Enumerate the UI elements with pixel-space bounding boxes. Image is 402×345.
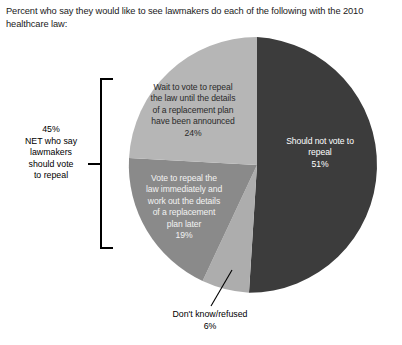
slice-label-line: plan later <box>167 219 202 229</box>
slice-label-repeal-immediately: Vote to repeal the law immediately and w… <box>126 173 242 241</box>
net-annotation-line: to repeal <box>34 170 68 180</box>
slice-label-line: law immediately and <box>146 184 222 194</box>
pie-chart-figure: Percent who say they would like to see l… <box>0 0 402 345</box>
slice-label-line: of a replacement plan <box>153 105 234 115</box>
net-annotation-value: 45% <box>42 124 60 134</box>
slice-label-should-not-vote-to-repeal: Should not vote to repeal 51% <box>268 136 372 170</box>
slice-label-line: of a replacement <box>153 207 216 217</box>
dont-know-annotation-value: 6% <box>204 321 217 331</box>
dont-know-annotation: Don't know/refused 6% <box>146 309 274 332</box>
slice-label-line: have been announced <box>151 116 234 126</box>
slice-label-line: Should not vote to <box>286 136 354 146</box>
slice-label-value: 24% <box>131 128 255 139</box>
slice-label-line: Vote to repeal the <box>151 173 217 183</box>
net-annotation-line: NET who say <box>25 136 77 146</box>
slice-label-line: repeal <box>308 147 331 157</box>
slice-label-line: the law until the details <box>151 93 236 103</box>
slice-label-value: 19% <box>126 230 242 241</box>
dont-know-annotation-label: Don't know/refused <box>172 309 247 319</box>
net-annotation: 45% NET who say lawmakers should vote to… <box>6 124 96 182</box>
net-annotation-line: lawmakers <box>30 147 72 157</box>
slice-label-value: 51% <box>268 159 372 170</box>
net-annotation-line: should vote <box>29 159 74 169</box>
slice-label-line: Wait to vote to repeal <box>154 82 233 92</box>
slice-label-wait-to-vote: Wait to vote to repeal the law until the… <box>131 82 255 139</box>
slice-label-line: work out the details <box>148 196 220 206</box>
